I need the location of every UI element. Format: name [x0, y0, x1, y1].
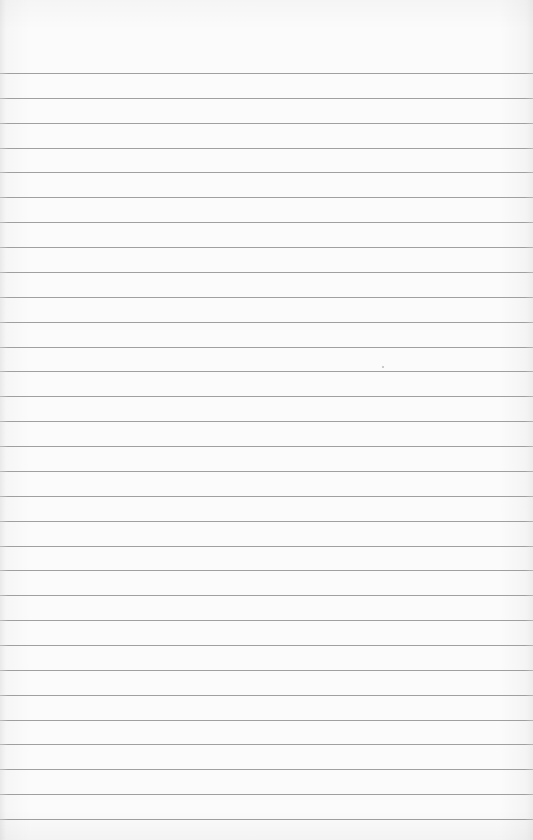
ruled-line [0, 222, 533, 223]
ruled-line [0, 247, 533, 248]
paper-speck [382, 366, 384, 368]
ruled-line [0, 595, 533, 596]
ruled-line [0, 819, 533, 820]
ruled-line [0, 695, 533, 696]
ruled-line [0, 521, 533, 522]
lined-paper-sheet [0, 0, 533, 840]
ruled-line [0, 123, 533, 124]
ruled-line [0, 322, 533, 323]
ruled-line [0, 73, 533, 74]
ruled-line [0, 496, 533, 497]
ruled-line [0, 471, 533, 472]
ruled-line [0, 197, 533, 198]
ruled-line [0, 620, 533, 621]
ruled-line [0, 720, 533, 721]
ruled-line [0, 645, 533, 646]
ruled-line [0, 297, 533, 298]
ruled-line [0, 769, 533, 770]
ruled-line [0, 347, 533, 348]
ruled-line [0, 570, 533, 571]
ruled-line [0, 172, 533, 173]
ruled-line [0, 371, 533, 372]
ruled-line [0, 421, 533, 422]
ruled-line [0, 670, 533, 671]
ruled-line [0, 744, 533, 745]
ruled-line [0, 396, 533, 397]
ruled-line [0, 546, 533, 547]
ruled-line [0, 446, 533, 447]
ruled-line [0, 794, 533, 795]
ruled-line [0, 272, 533, 273]
ruled-line [0, 98, 533, 99]
ruled-line [0, 148, 533, 149]
